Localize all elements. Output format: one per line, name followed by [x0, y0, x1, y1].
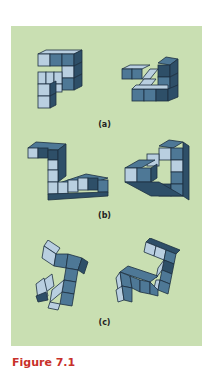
panel-label-c: (c) — [0, 318, 209, 327]
cube-figure-c-left — [30, 240, 96, 316]
cube-figure-b-right — [123, 138, 193, 210]
cube-figure-b-left — [26, 138, 116, 208]
cube-figure-a-right — [120, 55, 188, 115]
cube-figure-a-left — [34, 48, 94, 118]
panel-label-b: (b) — [0, 211, 209, 220]
figure-caption: Figure 7.1 — [12, 356, 75, 369]
cube-figure-c-right — [110, 238, 190, 318]
panel-label-a: (a) — [0, 120, 209, 129]
